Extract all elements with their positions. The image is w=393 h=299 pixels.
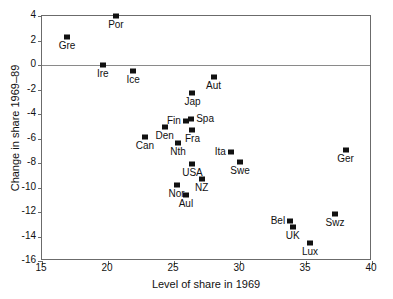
data-point-label-aul: Aul <box>179 199 193 209</box>
data-point-label-lux: Lux <box>302 247 318 257</box>
data-point-den <box>162 125 168 130</box>
data-point-lux <box>307 240 313 245</box>
data-point-nor <box>174 183 180 188</box>
y-tick-label--14: -14 <box>22 231 36 241</box>
data-point-label-uk: UK <box>286 231 300 241</box>
data-point-label-ire: Ire <box>97 69 109 79</box>
data-point-aul <box>183 192 189 197</box>
x-tick-label-40: 40 <box>365 263 376 273</box>
x-tick-label-20: 20 <box>101 263 112 273</box>
data-point-por <box>113 14 119 19</box>
data-point-label-ger: Ger <box>337 154 354 164</box>
data-point-label-can: Can <box>136 141 154 151</box>
y-tick--2 <box>38 90 42 91</box>
plot-area: PorGreIreIceAutJapFinSpaDenFraCanNthGerI… <box>41 15 371 260</box>
data-point-label-bel: Bel <box>271 216 285 226</box>
y-tick-label--16: -16 <box>22 255 36 265</box>
data-point-label-por: Por <box>108 20 124 30</box>
data-point-label-ice: Ice <box>126 75 139 85</box>
y-axis-title: Change in share 1969–89 <box>9 6 21 251</box>
data-point-label-swe: Swe <box>230 166 249 176</box>
data-point-label-nth: Nth <box>170 147 186 157</box>
data-point-aut <box>211 75 217 80</box>
data-point-fra <box>189 127 195 132</box>
y-tick-label-4: 4 <box>30 10 36 20</box>
data-point-nth <box>175 141 181 146</box>
y-tick-4 <box>38 16 42 17</box>
y-tick-label--12: -12 <box>22 206 36 216</box>
zero-reference-line <box>42 65 370 66</box>
data-point-swz <box>332 212 338 217</box>
data-point-bel <box>287 218 293 223</box>
y-tick-label--6: -6 <box>27 133 36 143</box>
data-point-ger <box>343 147 349 152</box>
y-tick-label--8: -8 <box>27 157 36 167</box>
data-point-label-nz: NZ <box>195 183 208 193</box>
data-point-gre <box>64 34 70 39</box>
y-tick-2 <box>38 41 42 42</box>
x-tick-label-15: 15 <box>35 263 46 273</box>
y-tick-label--10: -10 <box>22 182 36 192</box>
data-point-nz <box>199 176 205 181</box>
data-point-label-swz: Swz <box>326 218 345 228</box>
data-point-jap <box>189 91 195 96</box>
y-tick-label-0: 0 <box>30 59 36 69</box>
x-axis-tick-labels: 152025303540 <box>41 263 371 277</box>
data-point-label-fra: Fra <box>185 134 200 144</box>
y-tick-0 <box>38 65 42 66</box>
data-point-label-ita: Ita <box>215 147 226 157</box>
x-tick-label-25: 25 <box>167 263 178 273</box>
data-point-label-den: Den <box>156 131 174 141</box>
x-axis-title: Level of share in 1969 <box>41 278 371 290</box>
scatter-chart-figure: PorGreIreIceAutJapFinSpaDenFraCanNthGerI… <box>0 0 393 299</box>
data-point-ita <box>228 149 234 154</box>
y-tick--4 <box>38 114 42 115</box>
y-tick--8 <box>38 163 42 164</box>
y-tick--12 <box>38 212 42 213</box>
y-tick-label--4: -4 <box>27 108 36 118</box>
data-point-ire <box>100 63 106 68</box>
y-tick--14 <box>38 237 42 238</box>
y-tick-label--2: -2 <box>27 84 36 94</box>
data-point-swe <box>237 159 243 164</box>
data-point-uk <box>290 224 296 229</box>
data-point-usa <box>189 162 195 167</box>
data-point-label-jap: Jap <box>184 97 200 107</box>
x-tick-label-35: 35 <box>299 263 310 273</box>
data-point-ice <box>130 69 136 74</box>
data-point-label-fin: Fin <box>167 116 181 126</box>
data-point-label-gre: Gre <box>59 41 76 51</box>
y-tick--10 <box>38 188 42 189</box>
x-tick-label-30: 30 <box>233 263 244 273</box>
data-point-label-aut: Aut <box>206 81 221 91</box>
data-point-label-spa: Spa <box>196 114 214 124</box>
data-point-can <box>142 135 148 140</box>
y-tick--6 <box>38 139 42 140</box>
data-point-spa <box>188 116 194 121</box>
y-tick-label-2: 2 <box>30 35 36 45</box>
